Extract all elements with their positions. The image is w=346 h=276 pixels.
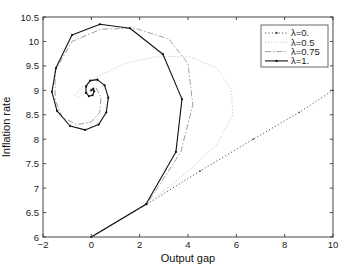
x-tick-label: 8 [282,239,287,250]
x-tick-label: 6 [234,239,239,250]
y-tick-label: 8.5 [26,109,39,120]
y-tick-label: 8 [34,134,39,145]
series-2 [55,28,193,237]
x-tick-label: 2 [137,239,142,250]
data-point-marker [55,67,57,69]
y-tick-label: 6.5 [26,207,39,218]
data-point-marker [69,125,71,127]
data-point-marker [51,91,53,93]
x-tick-label: 10 [328,239,339,250]
data-point-marker [97,123,99,125]
data-point-marker [90,89,92,91]
series-1 [74,56,232,237]
data-point-marker [85,92,87,94]
y-tick-label: 10.5 [21,12,40,23]
y-axis-label: Inflation rate [0,97,12,158]
x-tick-label: 4 [185,239,190,250]
data-point-marker [96,78,98,80]
data-point-marker [84,129,86,131]
data-point-marker [199,170,201,172]
data-point-marker [107,97,109,99]
data-point-marker [162,53,164,55]
x-tick-label: −2 [38,239,49,250]
data-point-marker [93,90,95,92]
data-point-marker [145,203,147,205]
data-point-marker [298,111,300,113]
data-point-marker [252,138,254,140]
series-3 [51,23,183,238]
data-point-marker [85,85,87,87]
data-point-marker [56,110,58,112]
data-point-marker [71,34,73,36]
line-chart: −2024681066.577.588.599.51010.5 λ=0.λ=0.… [0,0,346,276]
y-tick-label: 10 [28,36,39,47]
data-point-marker [92,88,94,90]
legend: λ=0.λ=0.5λ=0.75λ=1. [261,25,328,67]
x-axis-label: Output gap [161,252,215,264]
data-point-marker [104,84,106,86]
legend-entry-label: λ=1. [291,55,309,66]
data-point-marker [99,23,101,25]
y-tick-label: 9 [34,85,39,96]
data-point-marker [88,95,90,97]
data-point-marker [129,27,131,29]
data-point-marker [175,151,177,153]
y-tick-label: 9.5 [26,60,39,71]
data-point-marker [91,94,93,96]
y-tick-label: 7.5 [26,158,39,169]
data-point-marker [105,111,107,113]
y-tick-label: 6 [34,232,39,243]
y-tick-label: 7 [34,183,39,194]
data-point-marker [89,79,91,81]
data-point-marker [181,98,183,100]
x-tick-label: 0 [89,239,94,250]
